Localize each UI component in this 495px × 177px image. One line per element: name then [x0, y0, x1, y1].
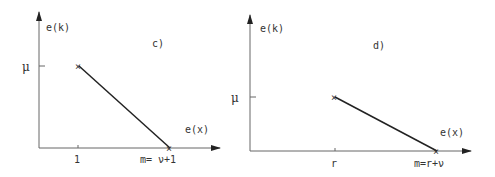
start-point-marker: ×	[331, 92, 337, 103]
y-tick-label: μ	[22, 60, 30, 74]
decreasing-line	[335, 97, 437, 151]
panel-c: × × e(k) e(x) c) μ 1 m= ν+1	[22, 12, 220, 165]
panel-d: × × e(k) e(x) d) μ r m=r+ν	[231, 15, 471, 169]
x-tick-end-label: m=r+ν	[414, 158, 444, 169]
end-point-marker: ×	[166, 143, 172, 154]
start-point-marker: ×	[75, 61, 81, 72]
panel-label: c)	[152, 38, 164, 49]
x-tick-start-label: 1	[74, 154, 80, 165]
diagram-canvas: × × e(k) e(x) c) μ 1 m= ν+1 × × e(k) e(x…	[0, 0, 495, 177]
x-tick-end-label: m= ν+1	[140, 154, 176, 165]
panel-label: d)	[373, 40, 385, 51]
x-tick-start-label: r	[331, 158, 337, 169]
y-tick-label: μ	[231, 91, 239, 105]
x-axis-label: e(x)	[185, 124, 209, 135]
end-point-marker: ×	[433, 146, 439, 157]
y-axis-label: e(k)	[260, 23, 284, 34]
x-axis-label: e(x)	[440, 127, 464, 138]
y-axis-label: e(k)	[46, 22, 70, 33]
decreasing-line	[79, 66, 170, 148]
